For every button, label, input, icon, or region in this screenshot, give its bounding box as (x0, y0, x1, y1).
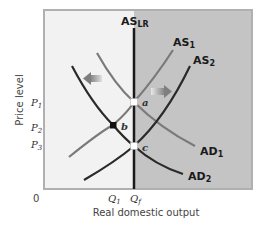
ad-as-diagram: a b c ASLR AS1 AS2 AD1 AD2 P1 P2 P3 0 Q1… (0, 0, 265, 228)
right-region (134, 10, 252, 189)
point-c-label: c (142, 142, 148, 153)
p2-label: P2 (30, 122, 43, 135)
point-b-marker (110, 122, 117, 129)
origin-label: 0 (33, 193, 39, 204)
point-a-marker (131, 99, 138, 106)
y-axis-label: Price level (14, 74, 25, 125)
point-a-label: a (142, 97, 148, 108)
p3-label: P3 (30, 139, 43, 152)
qf-label: Qf (130, 193, 142, 206)
left-region (44, 10, 134, 189)
q1-label: Q1 (108, 193, 121, 206)
p1-label: P1 (30, 97, 42, 110)
x-axis-label: Real domestic output (93, 207, 200, 218)
point-b-label: b (121, 121, 128, 132)
point-c-marker (131, 143, 138, 150)
